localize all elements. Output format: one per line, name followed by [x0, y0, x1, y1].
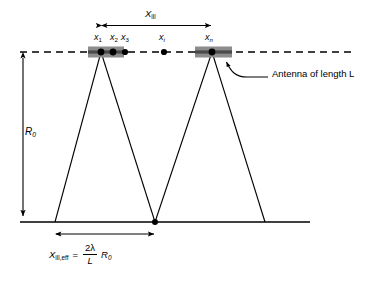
- equation-trailing-term: R0: [101, 249, 111, 261]
- sar-geometry-diagram: [0, 0, 370, 281]
- point-dot-x3: [122, 49, 128, 55]
- point-dot-xn: [209, 49, 216, 56]
- point-label-x1: x1: [94, 33, 102, 43]
- point-label-xn: xn: [205, 33, 213, 43]
- equation-fraction: 2λ L: [83, 243, 97, 266]
- point-label-xi: xi: [159, 33, 165, 43]
- point-dot-x2: [110, 49, 117, 56]
- antenna-callout-leader: [227, 62, 269, 77]
- r0-arrow-top-head: [20, 52, 25, 58]
- fraction-numerator: 2λ: [83, 243, 97, 254]
- x-ill-eff-equation: Xill,eff = 2λ L R0: [49, 243, 112, 266]
- beam-ray-xn-left: [155, 52, 212, 222]
- antenna-block-left-core: [88, 50, 124, 53]
- beam-ray-x1-left: [55, 52, 101, 222]
- point-label-x2: x2: [110, 33, 118, 43]
- beam-ray-x1-right: [101, 52, 155, 222]
- equation-equals-sign: =: [73, 249, 79, 260]
- point-dot-x1: [98, 49, 105, 56]
- equation-lhs: Xill,eff: [49, 249, 69, 261]
- antenna-callout-label: Antenna of length L: [272, 69, 354, 79]
- point-dot-xi: [161, 49, 167, 55]
- r0-label: R0: [25, 127, 36, 139]
- fraction-denominator: L: [83, 254, 97, 266]
- x-ill-label: Xill: [145, 9, 156, 20]
- point-label-x3: x3: [121, 33, 129, 43]
- ground-intersection-dot: [152, 219, 158, 225]
